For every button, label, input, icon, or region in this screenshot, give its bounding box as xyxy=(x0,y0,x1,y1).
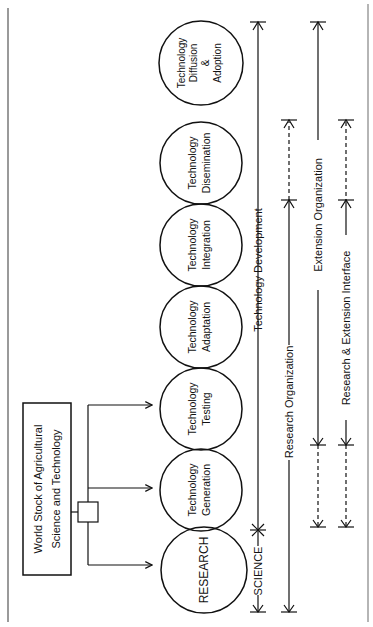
source-box: World Stock of Agricultural Science and … xyxy=(23,403,71,575)
stage-diffusion-line3: & xyxy=(200,59,211,66)
span-lines xyxy=(250,22,354,612)
stage-integration-line1: Technology xyxy=(186,218,198,272)
stage-diffusion-line1: Technology xyxy=(176,38,187,89)
research-extension-interface-label: Research & Extension Interface xyxy=(340,251,352,406)
stage-adaptation-line2: Adaptation xyxy=(200,302,212,352)
research-organization-label: Research Organization xyxy=(283,346,295,459)
stage-adaptation-line1: Technology xyxy=(186,300,198,354)
span-labels: SCIENCE Technology Development Research … xyxy=(252,158,352,595)
stage-testing-line1: Technology xyxy=(186,382,198,436)
extension-organization-label: Extension Organization xyxy=(312,158,324,272)
source-box-line2: Science and Technology xyxy=(50,429,62,549)
stage-dissemination-line1: Technology xyxy=(186,136,198,190)
stage-generation-line2: Generation xyxy=(200,464,212,516)
stage-dissemination-line2: Disemination xyxy=(200,132,212,193)
source-box-line1: World Stock of Agricultural xyxy=(32,425,44,554)
diagram-canvas: World Stock of Agricultural Science and … xyxy=(0,0,373,627)
distribution-connector xyxy=(71,405,152,565)
stage-diffusion-line2: Diffusion xyxy=(188,44,199,83)
technology-development-label: Technology Development xyxy=(252,208,264,332)
stage-research-label: RESEARCH xyxy=(197,537,211,604)
stage-diffusion-line4: Adoption xyxy=(212,43,223,82)
stage-integration-line2: Integration xyxy=(200,220,212,270)
stage-generation-line1: Technology xyxy=(186,463,198,517)
science-label: SCIENCE xyxy=(252,547,264,596)
stage-testing-line2: Testing xyxy=(200,392,212,425)
